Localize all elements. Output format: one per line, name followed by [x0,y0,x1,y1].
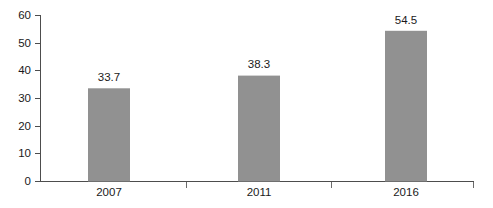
value-label-2011: 38.3 [248,58,270,70]
x-label-2007: 2007 [96,186,122,198]
y-tick-label-10: 10 [18,147,31,159]
y-tick-label-40: 40 [18,64,31,76]
y-tick-label-20: 20 [18,120,31,132]
bar-series [88,31,427,182]
y-tick-label-60: 60 [18,9,31,21]
chart-canvas: 60 50 40 30 20 10 0 33.7 38.3 54.5 [0,0,493,208]
y-tick-label-0: 0 [25,175,31,187]
x-axis-category-labels: 2007 2011 2016 [96,186,419,198]
y-tick-label-30: 30 [18,92,31,104]
x-label-2011: 2011 [247,186,272,198]
x-label-2016: 2016 [393,186,419,198]
value-label-2016: 54.5 [395,14,417,26]
value-label-2007: 33.7 [98,71,120,83]
bar-2016 [385,31,427,182]
y-tick-label-50: 50 [18,37,31,49]
bar-2011 [238,76,280,182]
bar-value-labels: 33.7 38.3 54.5 [98,14,417,84]
bar-chart: 60 50 40 30 20 10 0 33.7 38.3 54.5 [0,0,493,208]
y-axis-tick-labels: 60 50 40 30 20 10 0 [18,9,31,187]
x-axis-category-separators [187,182,474,189]
y-axis-ticks [35,16,41,182]
bar-2007 [88,88,130,181]
